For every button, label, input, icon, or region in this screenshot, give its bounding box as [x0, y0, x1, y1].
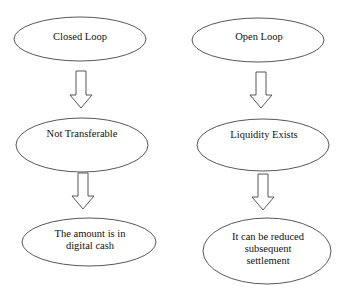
label-liquidity-exists: Liquidity Exists	[209, 129, 319, 141]
label-not-transferable: Not Transferable	[27, 128, 137, 140]
arrow-down-icon	[72, 173, 94, 209]
label-open-loop: Open Loop	[235, 31, 283, 43]
label-digital-cash: The amount is in digital cash	[50, 228, 130, 252]
arrow-down-icon	[252, 174, 274, 210]
arrow-down-icon	[250, 72, 272, 108]
label-closed-loop: Closed Loop	[53, 31, 107, 43]
node-not-transferable	[16, 118, 148, 172]
arrow-down-icon	[70, 71, 92, 108]
node-liquidity-exists	[197, 119, 329, 171]
label-subsequent-settlement: It can be reduced subsequent settlement	[232, 231, 304, 267]
